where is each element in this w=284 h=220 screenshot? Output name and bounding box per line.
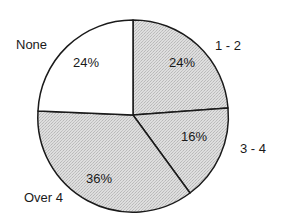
pct-none: 24% — [73, 56, 99, 69]
pct-1-2: 24% — [169, 56, 195, 69]
label-none: None — [16, 38, 47, 51]
pie-chart — [0, 0, 284, 220]
label-1-2: 1 - 2 — [215, 39, 241, 52]
pct-over-4: 36% — [86, 172, 112, 185]
pct-3-4: 16% — [181, 130, 207, 143]
label-3-4: 3 - 4 — [240, 142, 266, 155]
label-over-4: Over 4 — [24, 191, 63, 204]
